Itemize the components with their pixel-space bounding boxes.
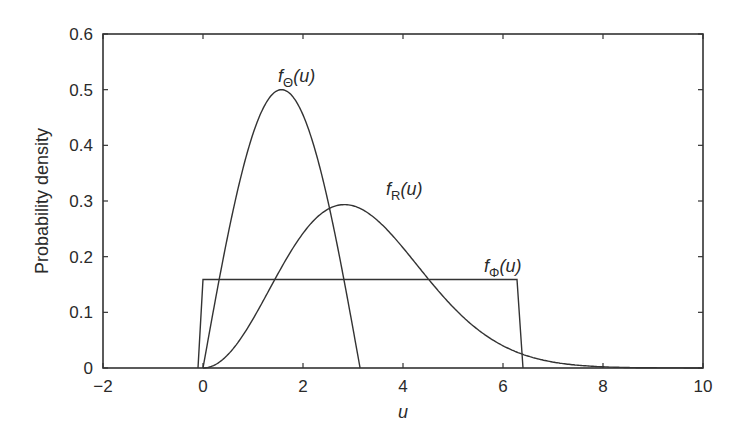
y-tick-label: 0 (84, 359, 93, 378)
y-tick-label: 0.5 (69, 81, 93, 100)
plot-frame (103, 34, 703, 368)
curve-f-theta (203, 90, 360, 368)
y-tick-labels: 00.10.20.30.40.50.6 (69, 25, 93, 378)
curve-labels: fΘ(u)fR(u)fΦ(u) (278, 66, 521, 280)
x-tick-labels: −20246810 (93, 377, 712, 396)
curves (198, 90, 703, 368)
curve-f-r (203, 205, 703, 368)
curve-label-f-phi: fΦ(u) (484, 256, 521, 280)
chart: −20246810 00.10.20.30.40.50.6 u Probabil… (0, 0, 749, 448)
x-tick-label: 8 (598, 377, 607, 396)
x-tick-label: 4 (398, 377, 407, 396)
x-tick-label: 2 (298, 377, 307, 396)
curve-label-f-theta: fΘ(u) (278, 66, 315, 90)
x-tick-label: 0 (198, 377, 207, 396)
curve-f-phi (198, 280, 523, 369)
y-tick-label: 0.6 (69, 25, 93, 44)
y-tick-label: 0.3 (69, 192, 93, 211)
axis-ticks (103, 34, 703, 368)
y-axis-title: Probability density (32, 128, 52, 274)
x-axis-title: u (398, 402, 408, 422)
plot-area-border (103, 34, 703, 368)
y-tick-label: 0.2 (69, 248, 93, 267)
x-tick-label: 10 (694, 377, 713, 396)
curve-label-f-r: fR(u) (386, 179, 422, 203)
x-tick-label: −2 (93, 377, 112, 396)
y-tick-label: 0.4 (69, 136, 93, 155)
y-tick-label: 0.1 (69, 303, 93, 322)
x-tick-label: 6 (498, 377, 507, 396)
